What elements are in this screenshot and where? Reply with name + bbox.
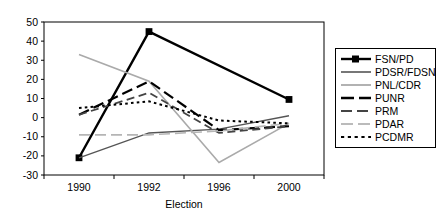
legend-label: PRM [375,105,398,117]
data-point-marker [286,96,293,103]
y-tick-label: 40 [26,35,38,47]
x-tick-label: 1996 [207,181,231,193]
y-tick-label: 30 [26,54,38,66]
chart-legend: FSN/PD PDSR/FDSN PNL/CDR PUNR PRM [335,48,436,148]
y-tick-label: -30 [23,169,38,181]
legend-key-fsn-pd [340,53,372,65]
legend-key-prm [340,105,372,117]
legend-item: PUNR [340,91,433,104]
legend-label: PUNR [375,92,405,104]
legend-label: FSN/PD [375,53,414,65]
x-axis-title: Election [165,198,203,210]
legend-item: PNL/CDR [340,78,433,91]
legend-item: PDAR [340,117,433,130]
legend-key-pcdmr [340,131,372,143]
y-tick-label: 0 [32,111,38,123]
chart-root: 50403020100-10-20-301990199219962000Elec… [0,0,445,221]
y-tick-label: -20 [23,149,38,161]
legend-key-pdar [340,118,372,130]
legend-item: PRM [340,104,433,117]
y-tick-label: 10 [26,92,38,104]
y-tick-label: -10 [23,130,38,142]
legend-key-punr [340,92,372,104]
series-line-fsn-pd [79,32,289,158]
legend-key-pnl-cdr [340,79,372,91]
x-tick-label: 1990 [67,181,91,193]
y-tick-label: 20 [26,73,38,85]
legend-item: PCDMR [340,130,433,143]
data-point-marker [146,28,153,35]
x-tick-label: 2000 [277,181,301,193]
x-tick-label: 1992 [137,181,161,193]
legend-key-pdsr-fdsn [340,66,372,78]
legend-label: PDAR [375,118,404,130]
legend-item: FSN/PD [340,52,433,65]
legend-label: PNL/CDR [375,79,421,91]
line-chart-svg: 50403020100-10-20-301990199219962000Elec… [0,0,330,221]
legend-label: PDSR/FDSN [375,66,436,78]
legend-item: PDSR/FDSN [340,65,433,78]
y-tick-label: 50 [26,16,38,28]
plot-area: 50403020100-10-20-301990199219962000Elec… [0,0,330,221]
legend-label: PCDMR [375,131,414,143]
